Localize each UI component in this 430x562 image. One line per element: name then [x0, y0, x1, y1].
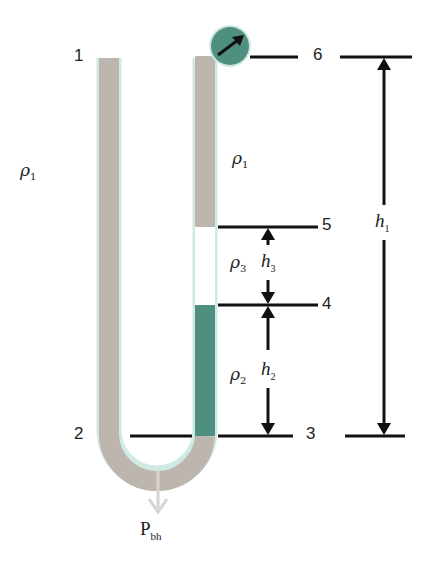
point-label-2: 2: [74, 424, 83, 444]
point-label-1: 1: [74, 46, 83, 66]
density-rho1-left: ρ1: [20, 160, 36, 182]
point-label-4: 4: [322, 294, 331, 314]
fluid-rho2: [195, 305, 215, 436]
height-h3: h3: [261, 250, 276, 274]
fluid-rho1-right: [195, 56, 215, 227]
point-label-5: 5: [322, 215, 331, 235]
manometer-diagram: [0, 0, 430, 562]
point-label-6: 6: [313, 45, 322, 65]
density-rho1-right: ρ1: [232, 148, 248, 170]
height-h1: h1: [375, 210, 390, 234]
dimension-arrows: [261, 58, 391, 435]
u-tube: [109, 56, 215, 481]
density-rho3: ρ3: [230, 252, 246, 274]
point-label-3: 3: [306, 424, 315, 444]
pressure-gauge-icon: [209, 25, 251, 67]
height-h2: h2: [261, 358, 276, 382]
fluid-rho1-left: [109, 58, 205, 481]
density-rho2: ρ2: [230, 364, 246, 386]
bottomhole-pressure-label: Pbh: [140, 518, 162, 542]
fluid-rho3: [195, 227, 215, 305]
